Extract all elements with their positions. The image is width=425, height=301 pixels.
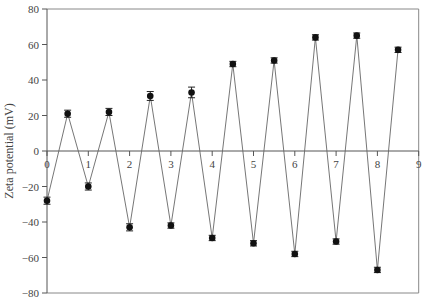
x-tick-label: 2 [127, 158, 133, 170]
data-point [64, 110, 71, 117]
data-point [126, 224, 133, 231]
data-point [271, 57, 278, 64]
marker-dot [126, 224, 133, 231]
y-tick-label: −20 [22, 181, 40, 193]
x-tick-label: 9 [416, 158, 422, 170]
y-tick-label: 0 [34, 145, 40, 157]
data-point [395, 47, 402, 54]
data-series-line [47, 36, 398, 270]
marker-dot [64, 110, 71, 117]
y-tick-label: 80 [28, 3, 40, 15]
x-tick-label: 3 [168, 158, 174, 170]
marker-dot [106, 109, 113, 116]
data-point [209, 235, 216, 242]
marker-dot [353, 32, 360, 39]
data-point [147, 92, 154, 101]
x-tick-label: 4 [209, 158, 215, 170]
data-point [374, 267, 381, 274]
x-tick-label: 5 [251, 158, 257, 170]
marker-dot [168, 222, 175, 229]
x-tick-label: 8 [375, 158, 381, 170]
x-tick-label: 1 [86, 158, 92, 170]
marker-dot [271, 57, 278, 64]
data-point [188, 87, 195, 98]
marker-dot [250, 240, 257, 247]
data-point [85, 183, 92, 190]
data-point [105, 108, 112, 115]
marker-dot [209, 235, 216, 242]
marker-dot [395, 47, 402, 54]
data-point [291, 251, 298, 258]
data-point [353, 32, 360, 39]
y-tick-label: −40 [22, 216, 40, 228]
data-point [333, 238, 340, 245]
marker-dot [188, 89, 195, 96]
marker-dot [333, 238, 340, 245]
x-tick-label: 7 [333, 158, 339, 170]
zeta-potential-chart: 806040200−20−40−60−80 0123456789 Zeta po… [0, 0, 425, 301]
y-tick-label: −80 [22, 287, 40, 299]
y-tick-label: −60 [22, 252, 40, 264]
marker-dot [374, 267, 381, 274]
marker-dot [85, 183, 92, 190]
y-axis-title: Zeta potential (mV) [2, 103, 16, 198]
marker-dot [292, 251, 299, 258]
marker-dot [230, 61, 237, 68]
marker-dot [44, 197, 51, 204]
marker-dot [147, 93, 154, 100]
x-tick-label: 0 [44, 158, 50, 170]
series-polyline [47, 36, 398, 270]
data-point [250, 240, 257, 247]
x-tick-label: 6 [292, 158, 298, 170]
data-point [312, 34, 319, 41]
y-tick-label: 20 [28, 110, 40, 122]
y-tick-label: 60 [28, 39, 40, 51]
x-axis-zero-line: 0123456789 [44, 151, 422, 170]
data-point [44, 197, 51, 204]
y-tick-label: 40 [28, 74, 40, 86]
data-point [229, 61, 236, 68]
y-axis: 806040200−20−40−60−80 [22, 3, 47, 299]
marker-dot [312, 34, 319, 41]
data-point [167, 222, 174, 229]
chart-canvas: 806040200−20−40−60−80 0123456789 Zeta po… [0, 0, 425, 301]
